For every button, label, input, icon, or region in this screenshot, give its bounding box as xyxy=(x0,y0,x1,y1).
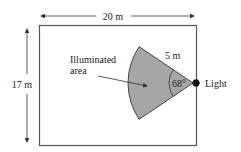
height-label: 17 m xyxy=(12,79,33,90)
light-label: Light xyxy=(205,78,227,89)
area-label-line2: area xyxy=(70,65,87,76)
area-label-line1: Illuminated xyxy=(70,54,116,65)
diagram: 20 m 17 m 68° 5 m Illuminated area Light xyxy=(0,0,241,152)
angle-label: 68° xyxy=(172,78,186,89)
width-label: 20 m xyxy=(103,11,124,22)
light-icon xyxy=(192,80,200,87)
radius-label: 5 m xyxy=(165,50,181,61)
